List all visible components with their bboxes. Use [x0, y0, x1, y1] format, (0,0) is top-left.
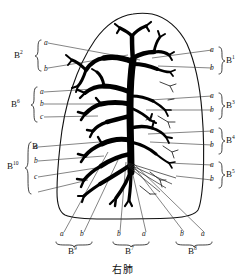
figure-page: B2 a b B6 a b c B B10 a b c a b B1 a b B… [0, 0, 246, 278]
segment-label-b8: B8 [188, 246, 197, 256]
subsegment-label-b4-b: b [210, 141, 214, 149]
subsegment-label-b6-c: c [40, 113, 43, 121]
subsegment-label-b10-c: c [34, 173, 37, 181]
subsegment-label-b7-b: b [117, 230, 121, 238]
segment-label-b2: B2 [14, 50, 23, 60]
segment-label-b1: B1 [226, 55, 235, 65]
subsegment-label-b6-a: a [40, 88, 44, 96]
radiating-lines [128, 163, 176, 192]
segment-label-b4: B4 [226, 135, 235, 145]
subsegment-label-b4-a: a [210, 127, 214, 135]
subsegment-label-b3-b: b [210, 106, 214, 114]
segment-label-b7: B7 [125, 246, 134, 256]
subsegment-label-b1-b: b [210, 64, 214, 72]
subsegment-label-b6-b: b [40, 100, 44, 108]
brace-group [25, 40, 225, 247]
subsegment-label-b10-a: a [34, 143, 38, 151]
subsegment-label-b10-b: b [34, 157, 38, 165]
subsegment-label-b2-a: a [44, 39, 48, 47]
subsegment-label-b9-b: b [80, 230, 84, 238]
segment-label-b5: B5 [226, 169, 235, 179]
subsegment-label-b8-b: b [180, 230, 184, 238]
subsegment-label-b1-a: a [210, 46, 214, 54]
subsegment-label-b8-a: a [201, 230, 205, 238]
segment-label-b10: B10 [7, 161, 19, 171]
subsegment-label-b2-b: b [44, 65, 48, 73]
subsegment-label-b5-a: a [210, 161, 214, 169]
subsegment-label-b9-a: a [60, 230, 64, 238]
subsegment-label-b5-b: b [210, 175, 214, 183]
segment-label-b6: B6 [11, 99, 20, 109]
segment-label-b9: B9 [68, 246, 77, 256]
segment-label-b3: B3 [226, 100, 235, 110]
subsegment-label-b3-a: a [210, 92, 214, 100]
figure-caption: 右肺 [0, 261, 246, 276]
lung-bronchial-tree-figure [0, 0, 246, 278]
subsegment-label-b7-a: a [142, 230, 146, 238]
